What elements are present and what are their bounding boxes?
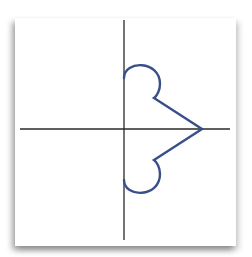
coordinate-plane [0, 0, 252, 257]
